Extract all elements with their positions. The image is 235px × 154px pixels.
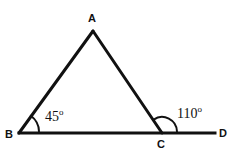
angle-c-degree-icon: o [197,104,202,114]
vertex-label-c: C [157,139,165,150]
angle-label-c: 110o [177,105,202,121]
figure-background [0,0,235,154]
geometry-figure: A B C D 45o 110o [0,0,235,154]
angle-label-b: 45o [45,108,64,124]
vertex-label-a: A [88,13,96,24]
vertex-label-b: B [5,129,13,140]
angle-c-value: 110 [177,106,197,121]
geometry-canvas [0,0,235,154]
angle-b-value: 45 [45,109,59,124]
vertex-label-d: D [219,128,227,139]
angle-b-degree-icon: o [59,107,64,117]
